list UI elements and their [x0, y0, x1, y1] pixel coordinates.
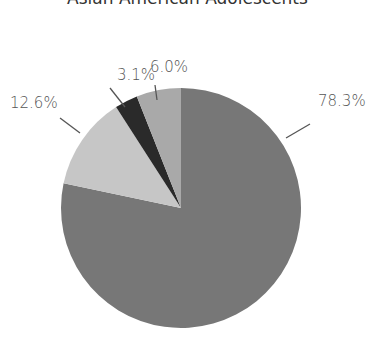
slice-label: 12.6%	[10, 94, 58, 112]
pie-slices	[61, 88, 301, 328]
leader-line	[286, 124, 310, 138]
slice-label: 6.0%	[150, 58, 188, 76]
leader-line	[110, 88, 125, 107]
slice-label: 78.3%	[318, 92, 366, 110]
pie-chart: 78.3%12.6%3.1%6.0%	[0, 0, 375, 341]
leader-line	[60, 118, 80, 133]
